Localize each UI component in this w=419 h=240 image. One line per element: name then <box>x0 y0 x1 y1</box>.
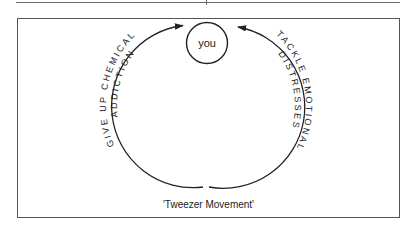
you-node-label: you <box>198 37 216 49</box>
diagram-caption: 'Tweezer Movement' <box>17 199 400 210</box>
